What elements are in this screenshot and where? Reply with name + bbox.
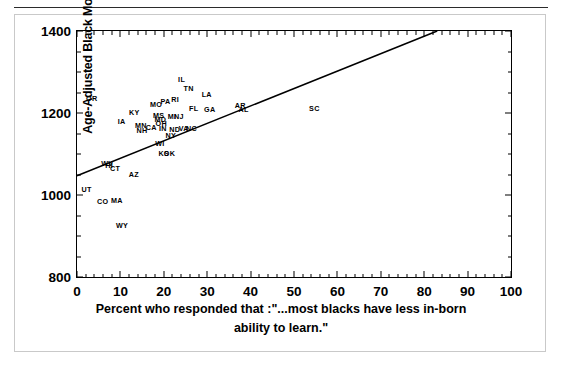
x-axis-major-tick: [511, 271, 512, 277]
x-axis-tick-label: 100: [500, 284, 523, 299]
x-axis-minor-tick-top: [320, 31, 321, 35]
y-axis-minor-tick: [77, 215, 81, 216]
data-point-label-co: CO: [97, 198, 108, 205]
regression-line-layer: [77, 31, 511, 277]
data-point-label-il: IL: [178, 76, 185, 83]
y-axis-minor-tick: [77, 92, 81, 93]
data-point-label-or: OR: [86, 96, 97, 103]
y-axis-minor-tick-right: [508, 236, 512, 237]
x-axis-minor-tick: [94, 274, 95, 278]
x-axis-minor-tick-top: [172, 31, 173, 35]
x-axis-minor-tick-top: [354, 31, 355, 35]
y-axis-minor-tick-right: [508, 72, 512, 73]
x-axis-minor-tick-top: [198, 31, 199, 35]
y-axis-tick-label: 1200: [41, 106, 71, 121]
x-axis-minor-tick: [181, 274, 182, 278]
x-axis-tick-label: 80: [417, 284, 432, 299]
x-axis-tick-label: 0: [73, 284, 81, 299]
data-point-label-ut: UT: [81, 186, 91, 193]
x-axis-minor-tick-top: [493, 31, 494, 35]
x-axis-minor-tick: [389, 274, 390, 278]
x-axis-major-tick: [207, 271, 208, 277]
x-axis-minor-tick: [259, 274, 260, 278]
data-point-label-ny: NY: [165, 132, 176, 139]
x-axis-major-tick-top: [511, 31, 512, 37]
x-axis-minor-tick-top: [233, 31, 234, 35]
x-axis-minor-tick: [189, 274, 190, 278]
x-axis-minor-tick-top: [372, 31, 373, 35]
x-axis-minor-tick-top: [502, 31, 503, 35]
figure-container: Age-Adjusted Black Mortality Rate 800100…: [0, 0, 562, 370]
x-axis-minor-tick: [441, 274, 442, 278]
x-axis-major-tick-top: [120, 31, 121, 37]
x-axis-major-tick-top: [424, 31, 425, 37]
x-axis-minor-tick-top: [363, 31, 364, 35]
x-axis-minor-tick: [328, 274, 329, 278]
x-axis-minor-tick: [346, 274, 347, 278]
y-axis-minor-tick: [77, 51, 81, 52]
data-point-label-fl: FL: [189, 105, 198, 112]
y-axis-major-tick: [77, 113, 83, 114]
x-axis-major-tick-top: [294, 31, 295, 37]
x-axis-minor-tick: [276, 274, 277, 278]
data-point-label-la: LA: [202, 92, 212, 99]
x-axis-minor-tick-top: [484, 31, 485, 35]
y-axis-tick-label: 1400: [41, 24, 71, 39]
x-axis-major-tick-top: [163, 31, 164, 37]
x-axis-minor-tick: [450, 274, 451, 278]
data-point-label-al: AL: [239, 107, 249, 114]
x-axis-minor-tick: [476, 274, 477, 278]
data-point-label-ma: MA: [111, 198, 123, 205]
y-axis-major-tick: [77, 31, 83, 32]
y-axis-minor-tick: [77, 236, 81, 237]
x-axis-minor-tick-top: [406, 31, 407, 35]
x-axis-minor-tick: [363, 274, 364, 278]
x-axis-minor-tick-top: [155, 31, 156, 35]
x-axis-major-tick: [467, 271, 468, 277]
data-point-label-wy: WY: [116, 223, 128, 230]
x-axis-minor-tick: [137, 274, 138, 278]
x-axis-minor-tick: [146, 274, 147, 278]
x-axis-minor-tick: [302, 274, 303, 278]
data-point-label-ia: IA: [118, 118, 126, 125]
x-axis-minor-tick: [502, 274, 503, 278]
x-axis-minor-tick: [372, 274, 373, 278]
x-caption-line-1: Percent who responded that :"...most bla…: [40, 300, 522, 319]
x-axis-tick-label: 40: [243, 284, 258, 299]
x-axis-minor-tick: [285, 274, 286, 278]
data-point-label-ct: CT: [110, 166, 120, 173]
x-axis-minor-tick: [458, 274, 459, 278]
y-axis-major-tick: [77, 195, 83, 196]
x-axis-minor-tick-top: [328, 31, 329, 35]
x-axis-major-tick-top: [207, 31, 208, 37]
x-axis-minor-tick: [85, 274, 86, 278]
y-axis-tick-label: 1000: [41, 188, 71, 203]
data-point-label-wi: WI: [155, 141, 164, 148]
y-axis-major-tick-right: [505, 113, 511, 114]
x-axis-minor-tick-top: [450, 31, 451, 35]
y-axis-minor-tick-right: [508, 174, 512, 175]
x-axis-major-tick-top: [337, 31, 338, 37]
x-axis-tick-label: 20: [156, 284, 171, 299]
x-axis-minor-tick-top: [146, 31, 147, 35]
x-axis-major-tick: [294, 271, 295, 277]
x-axis-major-tick-top: [380, 31, 381, 37]
x-axis-major-tick: [424, 271, 425, 277]
x-axis-minor-tick-top: [441, 31, 442, 35]
x-axis-minor-tick-top: [85, 31, 86, 35]
x-axis-minor-tick: [484, 274, 485, 278]
x-axis-major-tick-top: [77, 31, 78, 37]
y-axis-tick-label: 800: [48, 270, 71, 285]
data-point-label-nc: NC: [186, 126, 197, 133]
x-axis-major-tick: [163, 271, 164, 277]
x-axis-minor-tick: [233, 274, 234, 278]
x-axis-minor-tick-top: [276, 31, 277, 35]
x-axis-major-tick: [77, 271, 78, 277]
x-axis-major-tick-top: [250, 31, 251, 37]
x-axis-minor-tick-top: [129, 31, 130, 35]
x-axis-minor-tick: [155, 274, 156, 278]
x-axis-minor-tick-top: [103, 31, 104, 35]
x-axis-minor-tick-top: [398, 31, 399, 35]
x-axis-minor-tick: [129, 274, 130, 278]
y-axis-minor-tick-right: [508, 256, 512, 257]
